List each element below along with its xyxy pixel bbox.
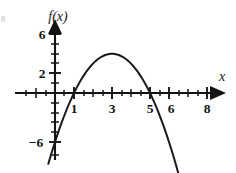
parabola-graph-figure: f(x) x 6 2 −6 1 3 5 6 8 bbox=[0, 0, 236, 173]
label-layer: f(x) x 6 2 −6 1 3 5 6 8 bbox=[0, 0, 236, 173]
x-tick-label-5: 5 bbox=[147, 101, 154, 116]
y-tick-label-2: 2 bbox=[39, 66, 46, 81]
y-axis-label: f(x) bbox=[48, 9, 68, 25]
x-tick-label-1: 1 bbox=[71, 101, 78, 116]
x-tick-label-3: 3 bbox=[109, 101, 116, 116]
x-axis-label: x bbox=[218, 69, 226, 84]
y-tick-label-6: 6 bbox=[39, 27, 46, 42]
x-tick-label-6: 6 bbox=[168, 101, 175, 116]
y-tick-label-neg6: −6 bbox=[29, 135, 44, 150]
x-tick-label-8: 8 bbox=[204, 101, 211, 116]
